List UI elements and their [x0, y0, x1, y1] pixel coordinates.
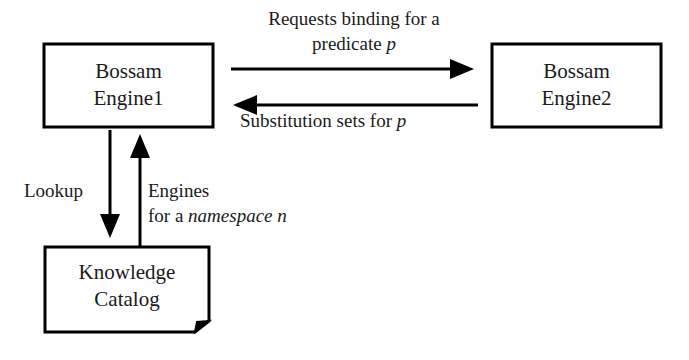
- knowledge-catalog-label-line1: Knowledge: [45, 259, 209, 286]
- engine1-label-line2: Engine1: [44, 85, 213, 112]
- diagram-canvas: Bossam Engine1 Bossam Engine2 Knowledge …: [0, 0, 689, 360]
- knowledge-catalog-fold-icon: [195, 321, 209, 332]
- request-arrow-head-icon: [450, 59, 474, 79]
- knowledge-catalog-label-line2: Catalog: [45, 286, 209, 313]
- engine2-label-line1: Bossam: [492, 58, 661, 85]
- engine1-label: Bossam Engine1: [44, 58, 213, 112]
- request-edge-label-line2: predicate p: [230, 31, 478, 56]
- request-edge-label-line2-text: predicate: [312, 33, 386, 54]
- engines-arrow-head-icon: [130, 134, 150, 158]
- request-edge-label-variable: p: [386, 33, 396, 54]
- knowledge-catalog-label: Knowledge Catalog: [45, 259, 209, 313]
- engines-edge-label-line2: for a namespace n: [148, 203, 287, 228]
- engine1-label-line1: Bossam: [44, 58, 213, 85]
- engines-edge-label-line1: Engines: [148, 178, 287, 203]
- substitution-edge-label-variable: p: [397, 110, 407, 131]
- substitution-edge-label-text: Substitution sets for: [240, 110, 397, 131]
- engines-edge-label-variable: namespace n: [188, 205, 287, 226]
- engine2-label-line2: Engine2: [492, 85, 661, 112]
- substitution-edge-label: Substitution sets for p: [240, 108, 480, 133]
- lookup-arrow-head-icon: [100, 214, 120, 238]
- lookup-edge-label: Lookup: [24, 178, 83, 203]
- engines-edge-label: Engines for a namespace n: [148, 178, 287, 228]
- request-edge-label: Requests binding for a predicate p: [230, 6, 478, 56]
- engines-edge-label-line2-text: for a: [148, 205, 188, 226]
- engine2-label: Bossam Engine2: [492, 58, 661, 112]
- request-edge-label-line1: Requests binding for a: [230, 6, 478, 31]
